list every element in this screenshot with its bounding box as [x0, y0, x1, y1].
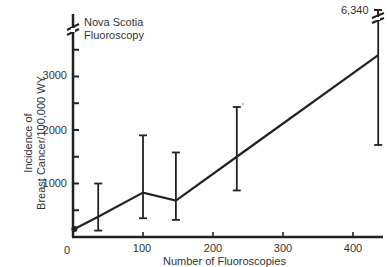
y-axis-label-line1: Incidence of	[22, 63, 35, 223]
x-axis-label: Number of Fluoroscopies	[163, 255, 286, 267]
y-tick-label-1000: 1000	[27, 177, 67, 189]
x-tick-label-400: 400	[333, 242, 373, 254]
error-bars	[94, 14, 382, 231]
data-line	[74, 55, 378, 229]
x-tick-label-0: 0	[47, 244, 87, 256]
y-tick-label-3000: 3000	[27, 69, 67, 81]
stray-mark	[242, 103, 244, 105]
y-tick-label-2000: 2000	[27, 124, 67, 136]
top-annotation: 6,340	[341, 4, 369, 16]
x-tick-label-200: 200	[193, 242, 233, 254]
first-data-point	[71, 226, 77, 232]
x-tick-label-300: 300	[263, 242, 303, 254]
chart-title: Nova Scotia Fluoroscopy	[84, 16, 174, 42]
x-tick-label-100: 100	[122, 242, 162, 254]
y-axis-label-line2: Breast Cancer/100,000 WY	[35, 63, 48, 223]
y-axis-label: Incidence of Breast Cancer/100,000 WY	[22, 63, 48, 223]
